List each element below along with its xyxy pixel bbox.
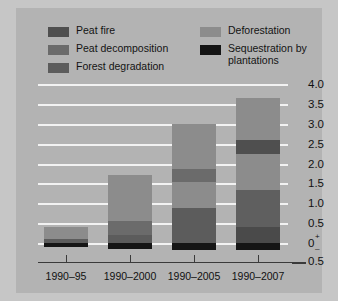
legend-item-label: Sequestration by plantations [228, 42, 328, 66]
ytick-label: 4.0 [308, 79, 324, 90]
segment-sequestration [172, 243, 216, 250]
segment-deforestation-lower [172, 182, 216, 208]
x-axis-line [38, 262, 292, 263]
ytick-label: 2.5 [308, 139, 324, 150]
xtick-mark [66, 255, 67, 262]
segment-deforestation-mid [236, 154, 280, 190]
bar-1990-95[interactable] [44, 227, 88, 247]
figure-background: Peat fire Peat decomposition Forest degr… [0, 0, 338, 301]
legend-swatch-icon [200, 27, 221, 37]
legend-swatch-icon [48, 63, 69, 73]
bar-1990-2005[interactable] [172, 124, 216, 250]
legend-item-label: Forest degradation [76, 60, 164, 72]
xtick-mark [258, 255, 259, 262]
segment-peat-fire [236, 140, 280, 154]
ytick-label: 1.5 [308, 178, 324, 189]
ytick-label: 1.0 [308, 198, 324, 209]
legend-column-right: Deforestation Sequestration by plantatio… [200, 24, 328, 71]
legend-swatch-icon [200, 45, 221, 55]
segment-peat-decomposition [108, 221, 152, 235]
segment-sequestration [44, 243, 88, 247]
xtick-label: 1990–2007 [218, 270, 298, 282]
gridline-4.0 [38, 84, 288, 86]
segment-deforestation [172, 124, 216, 169]
segment-deforestation [236, 98, 280, 140]
zero-plus-sign: + [315, 232, 320, 241]
segment-forest-degradation [236, 227, 280, 243]
legend-item-peat-fire: Peat fire [48, 24, 168, 39]
legend-item-label: Peat fire [76, 24, 115, 36]
segment-deforestation [44, 227, 88, 239]
legend-item-sequestration: Sequestration by plantations [200, 42, 328, 68]
legend-item-label: Peat decomposition [76, 42, 168, 54]
segment-peat-decomposition [172, 169, 216, 182]
chart-panel: Peat fire Peat decomposition Forest degr… [16, 8, 322, 293]
bar-1990-2000[interactable] [108, 175, 152, 249]
xtick-mark [194, 255, 195, 262]
chart-legend: Peat fire Peat decomposition Forest degr… [48, 24, 328, 80]
segment-sequestration [108, 243, 152, 249]
legend-column-left: Peat fire Peat decomposition Forest degr… [48, 24, 168, 78]
legend-item-peat-decomposition: Peat decomposition [48, 42, 168, 57]
xtick-mark [130, 255, 131, 262]
legend-item-forest-degradation: Forest degradation [48, 60, 168, 75]
segment-forest-degradation [108, 235, 152, 243]
ytick-label: 2.0 [308, 159, 324, 170]
legend-item-deforestation: Deforestation [200, 24, 328, 39]
ytick-label: 0.5 [308, 218, 324, 229]
legend-swatch-icon [48, 45, 69, 55]
segment-forest-degradation [172, 208, 216, 243]
legend-swatch-icon [48, 27, 69, 37]
ytick-label-negative: 0.5 [308, 256, 324, 267]
segment-deforestation [108, 175, 152, 221]
bar-1990-2007[interactable] [236, 98, 280, 250]
legend-item-label: Deforestation [228, 24, 290, 36]
ytick-label: 3.5 [308, 99, 324, 110]
ytick-label-zero: 0 [308, 238, 314, 249]
segment-peat-decomposition [236, 190, 280, 227]
segment-sequestration [236, 243, 280, 250]
zero-minus-sign: – [315, 244, 319, 253]
ytick-label: 3.0 [308, 119, 324, 130]
gridline-negative-0.5 [292, 262, 306, 264]
